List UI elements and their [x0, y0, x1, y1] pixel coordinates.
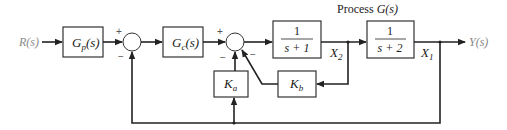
summing-junction-2: + − − — [217, 26, 256, 63]
process-title: Process G(s) — [337, 2, 398, 16]
output-label: Y(s) — [469, 35, 488, 49]
summing-junction-1: + − — [116, 26, 141, 62]
svg-text:s + 1: s + 1 — [285, 41, 310, 55]
gain-b-block: Kb — [278, 71, 316, 97]
svg-text:Gc(s): Gc(s) — [172, 35, 199, 52]
block-diagram: Process G(s) R(s) Gp(s) + − Gc(s) + − − … — [0, 0, 507, 130]
svg-text:s + 2: s + 2 — [378, 41, 403, 55]
svg-text:1: 1 — [387, 24, 393, 38]
svg-text:−: − — [220, 52, 226, 63]
x2-label: X2 — [329, 45, 343, 62]
svg-text:−: − — [118, 51, 124, 62]
svg-text:Gp(s): Gp(s) — [72, 35, 100, 52]
gain-a-block: Ka — [214, 71, 248, 97]
svg-text:−: − — [250, 49, 256, 60]
input-label: R(s) — [18, 35, 39, 49]
svg-text:1: 1 — [294, 24, 300, 38]
svg-text:+: + — [217, 26, 223, 37]
svg-text:+: + — [116, 26, 122, 37]
prefilter-block: Gp(s) — [63, 27, 103, 57]
plant-block-2: 1 s + 2 — [367, 21, 414, 58]
x1-label: X1 — [420, 45, 433, 62]
controller-block: Gc(s) — [163, 27, 203, 57]
plant-block-1: 1 s + 1 — [273, 21, 321, 58]
